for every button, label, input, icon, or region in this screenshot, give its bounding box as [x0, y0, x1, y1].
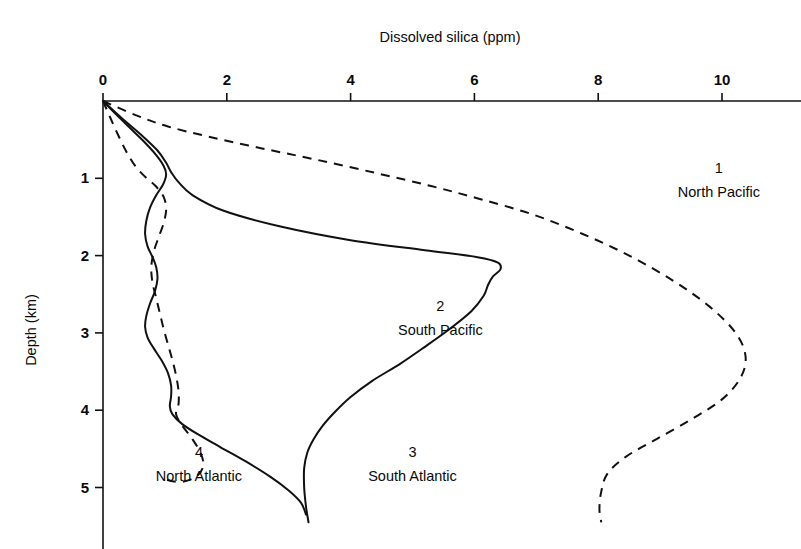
y-axis-title: Depth (km) — [23, 294, 39, 366]
x-axis: 0246810 — [99, 71, 801, 101]
series-label-north-atlantic: North Atlantic — [156, 468, 242, 484]
y-axis-tick-label: 5 — [81, 479, 89, 496]
y-axis: 12345 — [81, 101, 103, 549]
x-axis-tick-label: 2 — [223, 71, 231, 88]
y-axis-tick-label: 4 — [81, 401, 90, 418]
x-axis-tick-label: 10 — [714, 71, 731, 88]
curve-north-atlantic — [103, 101, 203, 482]
silica-depth-figure: Dissolved silica (ppm) 0246810 12345 Dep… — [0, 0, 801, 549]
series-number-south-atlantic: 3 — [408, 444, 416, 460]
x-axis-tick-label: 8 — [594, 71, 602, 88]
series-label-south-pacific: South Pacific — [398, 322, 483, 338]
series-number-north-pacific: 1 — [715, 160, 723, 176]
series-label-north-pacific: North Pacific — [678, 184, 760, 200]
x-axis-tick-label: 0 — [99, 71, 107, 88]
y-axis-tick-label: 3 — [81, 324, 89, 341]
y-axis-tick-label: 2 — [81, 247, 89, 264]
x-axis-tick-label: 4 — [346, 71, 355, 88]
series-number-south-pacific: 2 — [436, 298, 444, 314]
series-annotations: 1North Pacific2South Pacific3South Atlan… — [156, 160, 760, 484]
series-label-south-atlantic: South Atlantic — [368, 468, 457, 484]
chart-title: Dissolved silica (ppm) — [379, 29, 520, 45]
x-axis-tick-label: 6 — [470, 71, 478, 88]
series-number-north-atlantic: 4 — [195, 444, 203, 460]
chart-svg: Dissolved silica (ppm) 0246810 12345 Dep… — [0, 0, 801, 549]
y-axis-tick-label: 1 — [81, 169, 89, 186]
